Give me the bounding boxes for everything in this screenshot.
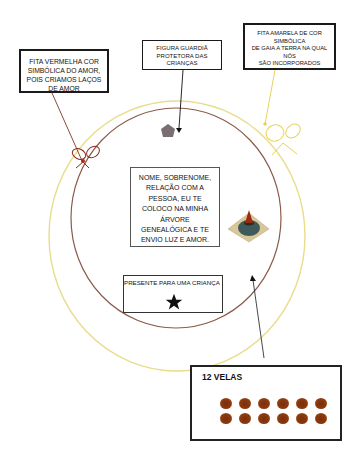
candles-arrow-head [250,275,256,281]
center-line-5: ÁRVORE [131,215,219,225]
candle-icon [239,398,251,409]
central-candle-icon [228,210,269,242]
candle-icon [220,398,232,409]
candle-icon [258,398,270,409]
yellow-ribbon-line-3: DE GAIA A TERRA NA QUAL [245,45,334,53]
red-bow-icon [71,144,102,168]
candle-icon [315,398,327,409]
candle-icon [239,413,251,424]
center-line-3: PESSOA, EU TE [131,194,219,204]
guardian-arrow-line [179,70,183,128]
red-ribbon-label: FITA VERMELHA COR SIMBÓLICA DO AMOR, POI… [19,49,109,93]
red-bow-knot [81,159,85,163]
red-ribbon-line-3: POIS CRIAMOS LAÇOS [21,75,107,84]
center-line-1: NOME, SOBRENOME, [131,173,219,183]
guardian-line-1: FIGURA GUARDIÃ [143,45,221,53]
yellow-ribbon-line-2: SIMBÓLICA [245,38,334,46]
candle-icon [315,413,327,424]
candle-icon [277,413,289,424]
red-ribbon-line-1: FITA VERMELHA COR [21,57,107,66]
center-line-7: ENVIO LUZ E AMOR. [131,235,219,245]
star-icon [165,293,183,311]
guardian-pentagon-icon [161,124,175,137]
guardian-line-3: CRIANÇAS [143,60,221,68]
candle-icon [220,413,232,424]
candle-icon [296,398,308,409]
twelve-candles-box: 12 VELAS [190,365,342,441]
guardian-figure-label: FIGURA GUARDIÃ PROTETORA DAS CRIANÇAS [142,40,222,70]
yellow-bow-icon [264,121,303,155]
candle-icon [296,413,308,424]
center-line-2: RELAÇÃO COM A [131,183,219,193]
guardian-line-2: PROTETORA DAS [143,53,221,61]
present-for-child-box: PRESENTE PARA UMA CRIANÇA [123,275,223,313]
yellow-ribbon-label: FITA AMARELA DE COR SIMBÓLICA DE GAIA A … [243,23,336,70]
yellow-ribbon-knot [263,122,267,126]
candle-icon [258,413,270,424]
red-ribbon-line-4: DE AMOR [21,84,107,93]
candles-grid [220,398,329,424]
yellow-ribbon-line-1: FITA AMARELA DE COR [245,30,334,38]
present-label: PRESENTE PARA UMA CRIANÇA [124,279,222,287]
yellow-ribbon-line-5: SÃO INCORPORADOS [245,60,334,68]
candles-arrow-line [253,280,264,358]
guardian-arrow-head [176,128,182,133]
center-dedication-text: NOME, SOBRENOME, RELAÇÃO COM A PESSOA, E… [130,167,220,247]
candles-label: 12 VELAS [202,372,340,382]
red-ribbon-line [52,93,83,163]
candle-icon [277,398,289,409]
red-ribbon-line-2: SIMBÓLICA DO AMOR, [21,66,107,75]
center-line-4: COLOCO NA MINHA [131,204,219,214]
ritual-diagram: FITA VERMELHA COR SIMBÓLICA DO AMOR, POI… [0,0,357,459]
center-line-6: GENEALÓGICA E TE [131,225,219,235]
yellow-ribbon-line [265,70,275,124]
yellow-ribbon-line-4: NÓS [245,53,334,61]
